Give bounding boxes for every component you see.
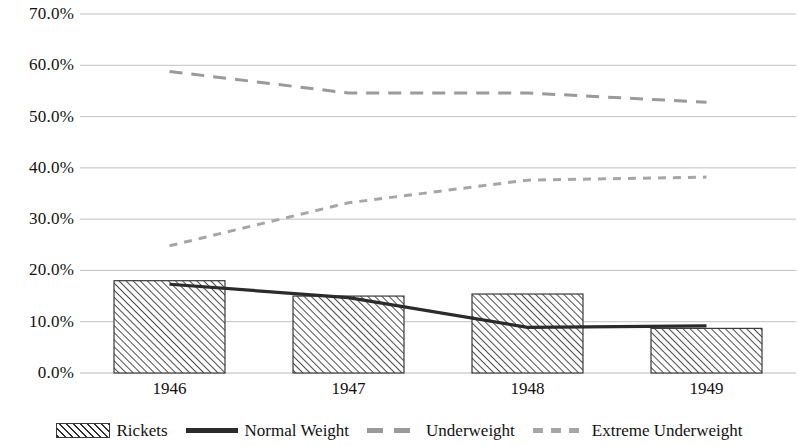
x-axis-tick-label: 1947 xyxy=(259,376,438,404)
legend-item[interactable]: Normal Weight xyxy=(186,421,350,440)
bar xyxy=(651,328,762,373)
bar xyxy=(293,296,404,373)
hatched-bar-swatch-icon xyxy=(56,423,110,438)
chart-legend: RicketsNormal WeightUnderweightExtreme U… xyxy=(0,414,798,446)
line-series xyxy=(170,71,707,102)
line-series xyxy=(170,284,707,327)
legend-item-label: Extreme Underweight xyxy=(592,421,743,440)
legend-item-label: Underweight xyxy=(426,421,515,440)
legend-item[interactable]: Extreme Underweight xyxy=(533,421,743,440)
chart-figure: 0.0%10.0%20.0%30.0%40.0%50.0%60.0%70.0% … xyxy=(0,0,798,446)
dotted-line-swatch-icon xyxy=(533,428,585,433)
line-series xyxy=(170,177,707,246)
dashed-line-swatch-icon xyxy=(367,428,419,433)
legend-item[interactable]: Rickets xyxy=(56,421,168,440)
bar xyxy=(472,294,583,373)
x-axis-tick-label: 1948 xyxy=(438,376,617,404)
x-axis: 1946194719481949 xyxy=(80,376,796,404)
solid-line-swatch-icon xyxy=(186,428,238,433)
legend-item[interactable]: Underweight xyxy=(367,421,515,440)
line-series-group xyxy=(170,71,707,327)
legend-item-label: Rickets xyxy=(117,421,168,440)
bar xyxy=(114,281,225,373)
x-axis-tick-label: 1946 xyxy=(80,376,259,404)
legend-item-label: Normal Weight xyxy=(245,421,350,440)
x-axis-tick-label: 1949 xyxy=(617,376,796,404)
